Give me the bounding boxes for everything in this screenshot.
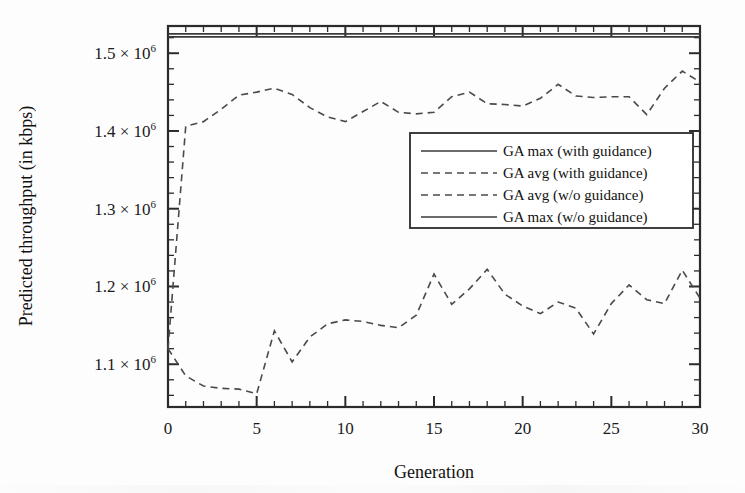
line-chart: 1.1 × 1061.2 × 1061.3 × 1061.4 × 1061.5 … <box>0 0 745 493</box>
legend-label: GA max (with guidance) <box>503 143 652 160</box>
x-tick-label: 5 <box>252 419 261 438</box>
y-tick-label: 1.5 × 106 <box>94 42 156 63</box>
y-tick-label: 1.1 × 106 <box>94 353 156 374</box>
figure-container: 1.1 × 1061.2 × 1061.3 × 1061.4 × 1061.5 … <box>0 0 745 493</box>
chart-legend: GA max (with guidance)GA avg (with guida… <box>410 133 693 228</box>
y-tick-label: 1.2 × 106 <box>94 275 156 296</box>
y-tick-label: 1.3 × 106 <box>94 198 156 219</box>
x-tick-label: 25 <box>603 419 620 438</box>
page-edge-artifact <box>0 485 745 493</box>
series-line <box>168 269 700 393</box>
legend-label: GA avg (with guidance) <box>503 165 648 182</box>
y-axis-title: Predicted throughput (in kbps) <box>16 106 37 326</box>
x-tick-label: 20 <box>514 419 531 438</box>
x-tick-label: 10 <box>337 419 354 438</box>
x-tick-label: 15 <box>426 419 443 438</box>
legend-label: GA avg (w/o guidance) <box>503 187 643 204</box>
x-tick-label: 30 <box>692 419 709 438</box>
x-tick-label: 0 <box>164 419 173 438</box>
x-axis-title: Generation <box>394 462 474 482</box>
y-axis-tick-labels: 1.1 × 1061.2 × 1061.3 × 1061.4 × 1061.5 … <box>94 42 156 374</box>
legend-label: GA max (w/o guidance) <box>503 209 648 226</box>
x-axis-tick-labels: 051015202530 <box>164 419 709 438</box>
y-tick-label: 1.4 × 106 <box>94 120 156 141</box>
